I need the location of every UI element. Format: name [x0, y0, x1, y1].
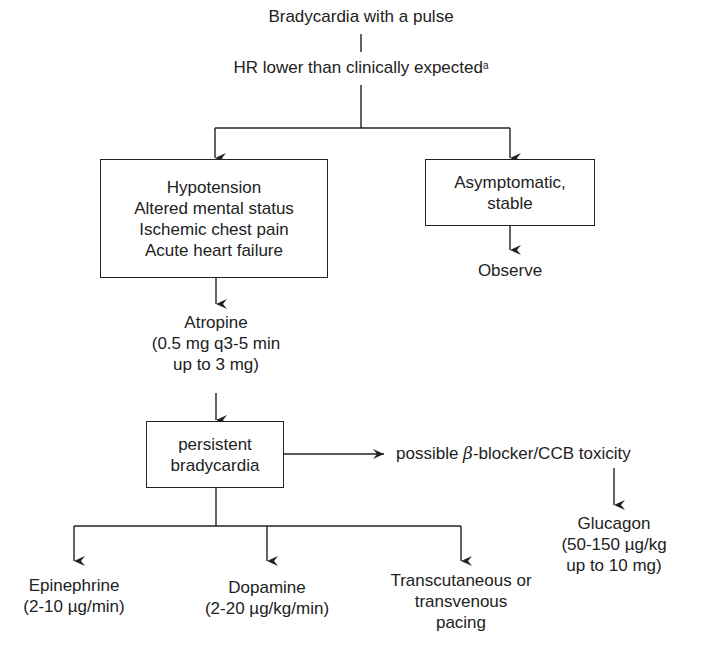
title-node: Bradycardia with a pulse — [221, 6, 501, 27]
persistent-line-1: persistent — [178, 434, 252, 455]
atropine-max: up to 3 mg) — [126, 354, 306, 375]
criteria-text: HR lower than clinically expected — [233, 58, 482, 77]
glucagon-name: Glucagon — [554, 513, 674, 534]
dopamine-dose: (2-20 µg/kg/min) — [187, 598, 347, 619]
glucagon-max: up to 10 mg) — [554, 555, 674, 576]
bradycardia-flowchart: Bradycardia with a pulse HR lower than c… — [0, 0, 708, 646]
symptom-altered-mental-status: Altered mental status — [134, 198, 294, 219]
epinephrine-name: Epinephrine — [4, 575, 144, 596]
pacing-node: Transcutaneous or transvenous pacing — [371, 570, 551, 633]
symptomatic-box: Hypotension Altered mental status Ischem… — [100, 159, 328, 278]
stable-line-1: Asymptomatic, — [454, 172, 565, 193]
dopamine-node: Dopamine (2-20 µg/kg/min) — [187, 577, 347, 619]
pacing-line-2: transvenous — [371, 591, 551, 612]
symptom-ischemic-chest-pain: Ischemic chest pain — [139, 219, 288, 240]
observe-node: Observe — [450, 260, 570, 281]
dopamine-name: Dopamine — [187, 577, 347, 598]
epinephrine-node: Epinephrine (2-10 µg/min) — [4, 575, 144, 617]
title-text: Bradycardia with a pulse — [268, 7, 453, 26]
persistent-line-2: bradycardia — [171, 455, 260, 476]
stable-box: Asymptomatic, stable — [425, 159, 595, 226]
toxicity-node: possible β-blocker/CCB toxicity — [396, 443, 696, 464]
pacing-line-3: pacing — [371, 612, 551, 633]
atropine-node: Atropine (0.5 mg q3-5 min up to 3 mg) — [126, 312, 306, 375]
criteria-node: HR lower than clinically expecteda — [180, 57, 542, 78]
glucagon-dose: (50-150 µg/kg — [554, 534, 674, 555]
epinephrine-dose: (2-10 µg/min) — [4, 596, 144, 617]
symptom-acute-heart-failure: Acute heart failure — [145, 240, 283, 261]
footnote-mark: a — [483, 60, 489, 71]
persistent-bradycardia-box: persistent bradycardia — [146, 421, 284, 488]
stable-line-2: stable — [487, 193, 532, 214]
atropine-dose: (0.5 mg q3-5 min — [126, 333, 306, 354]
symptom-hypotension: Hypotension — [167, 177, 262, 198]
pacing-line-1: Transcutaneous or — [371, 570, 551, 591]
beta-symbol: β — [463, 443, 473, 463]
toxicity-prefix: possible — [396, 444, 463, 463]
atropine-name: Atropine — [126, 312, 306, 333]
observe-text: Observe — [478, 261, 542, 280]
glucagon-node: Glucagon (50-150 µg/kg up to 10 mg) — [554, 513, 674, 576]
toxicity-suffix: -blocker/CCB toxicity — [473, 444, 631, 463]
